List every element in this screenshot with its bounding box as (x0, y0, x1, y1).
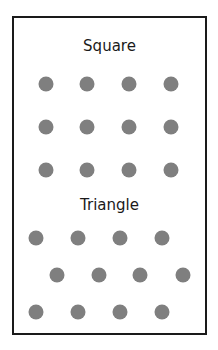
dot (122, 163, 137, 178)
dot (39, 163, 54, 178)
dot (122, 77, 137, 92)
dot (155, 305, 170, 320)
dot (113, 305, 128, 320)
dot (50, 268, 65, 283)
dot (113, 231, 128, 246)
dot (71, 231, 86, 246)
dot (80, 163, 95, 178)
dot (164, 120, 179, 135)
dot (133, 268, 148, 283)
triangle-label: Triangle (12, 196, 207, 214)
dot (39, 77, 54, 92)
dot (92, 268, 107, 283)
dot (164, 163, 179, 178)
dot (155, 231, 170, 246)
dot (176, 268, 191, 283)
dot (29, 305, 44, 320)
dot (164, 77, 179, 92)
dot (71, 305, 86, 320)
dot (122, 120, 137, 135)
dot (39, 120, 54, 135)
square-label: Square (12, 37, 207, 55)
dot (80, 120, 95, 135)
dot (80, 77, 95, 92)
dot (29, 231, 44, 246)
